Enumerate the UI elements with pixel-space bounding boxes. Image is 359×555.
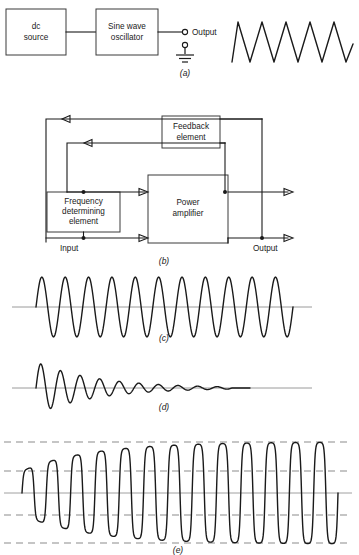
figure-canvas: dc source Sine wave oscillator Output (a… <box>0 0 359 555</box>
power-amplifier-label-line1: Power <box>176 198 199 207</box>
caption-d: (d) <box>159 402 170 412</box>
feedback-element-label-line2: element <box>176 133 206 142</box>
input-label-b: Input <box>60 244 79 253</box>
caption-b: (b) <box>159 256 170 266</box>
junction-fde-top <box>82 190 86 194</box>
dc-source-block <box>6 9 66 55</box>
sine-wave-oscillator-block <box>96 9 158 55</box>
panel-c: (c) <box>12 277 312 343</box>
output-terminal-label: Output <box>192 28 217 37</box>
panel-d: (d) <box>12 364 312 412</box>
panel-b: Feedback element Frequency determining e… <box>46 116 293 267</box>
panel-a: dc source Sine wave oscillator Output (a… <box>6 9 353 78</box>
sine-wave-output-waveform <box>232 22 353 62</box>
fde-label-line2: determining <box>62 207 105 216</box>
caption-c: (c) <box>159 333 169 343</box>
feedback-element-label-line1: Feedback <box>173 122 210 131</box>
fde-label-line1: Frequency <box>64 197 104 206</box>
damped-oscillation-waveform <box>36 364 250 408</box>
fde-label-line3: element <box>69 217 99 226</box>
dc-source-label-line1: dc <box>32 22 41 31</box>
oscillator-label-line1: Sine wave <box>108 22 146 31</box>
output-terminal-dot <box>182 29 187 34</box>
junction-inner-tap <box>223 190 227 194</box>
dc-source-label-line2: source <box>24 33 49 42</box>
oscillator-label-line2: oscillator <box>111 33 144 42</box>
caption-e: (e) <box>173 545 184 555</box>
power-amplifier-label-line2: amplifier <box>173 209 204 218</box>
ground-terminal-dot <box>182 42 187 47</box>
figure-root: dc source Sine wave oscillator Output (a… <box>0 0 359 555</box>
output-label-b: Output <box>253 244 278 253</box>
panel-e: (e) <box>4 442 352 555</box>
caption-a: (a) <box>180 68 191 78</box>
